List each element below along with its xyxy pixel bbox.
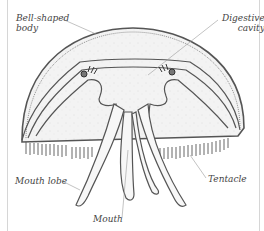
label-digestive-line1: Digestive bbox=[222, 13, 264, 23]
label-bell-line2: body bbox=[16, 23, 69, 33]
label-bell-line1: Bell-shaped bbox=[16, 13, 69, 23]
label-bell-shaped-body: Bell-shaped body bbox=[16, 13, 69, 33]
label-tentacle: Tentacle bbox=[208, 174, 247, 184]
jellyfish-illustration bbox=[0, 0, 264, 231]
diagram-frame: Bell-shaped body Digestive cavity Mouth … bbox=[0, 0, 264, 231]
label-mouth: Mouth bbox=[93, 214, 123, 224]
label-digestive-cavity: Digestive cavity bbox=[222, 13, 264, 33]
label-mouth-lobe: Mouth lobe bbox=[15, 176, 67, 186]
label-digestive-line2: cavity bbox=[222, 23, 264, 33]
